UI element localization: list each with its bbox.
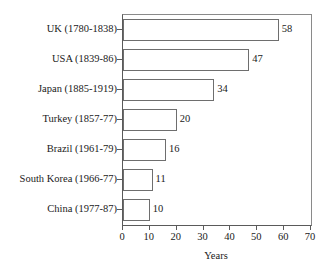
bar-value-label: 58 [282, 23, 293, 34]
x-axis-tick-label: 20 [170, 231, 181, 243]
y-axis-label: UK (1780-1838) [47, 23, 117, 35]
bar-value-label: 16 [169, 143, 180, 154]
y-axis-label: Japan (1885-1919) [38, 83, 117, 95]
bar [123, 79, 214, 101]
x-axis-tick [149, 225, 150, 230]
y-axis-label: China (1977-87) [47, 203, 117, 215]
x-axis-tick-label: 70 [305, 231, 316, 243]
x-axis-tick [310, 225, 311, 230]
bar-value-label: 34 [217, 83, 228, 94]
x-axis-tick [203, 225, 204, 230]
x-axis-tick-label: 0 [119, 231, 124, 243]
bar [123, 19, 279, 41]
y-axis-label: South Korea (1966-77) [20, 173, 117, 185]
y-axis-label: USA (1839-86) [52, 53, 117, 65]
x-axis-tick-label: 30 [197, 231, 208, 243]
x-axis-tick [229, 225, 230, 230]
x-axis-tick [122, 225, 123, 230]
y-axis-label: Brazil (1961-79) [47, 143, 117, 155]
bar-value-label: 47 [252, 53, 263, 64]
x-axis-title: Years [122, 250, 310, 262]
y-axis-label: Turkey (1857-77) [42, 113, 117, 125]
bar [123, 139, 166, 161]
x-axis-tick-label: 50 [251, 231, 262, 243]
bar [123, 109, 177, 131]
x-axis-tick [256, 225, 257, 230]
x-axis-tick-label: 60 [278, 231, 289, 243]
bar-value-label: 11 [156, 173, 166, 184]
x-axis-tick [283, 225, 284, 230]
plot-area [122, 14, 312, 226]
x-axis-tick [176, 225, 177, 230]
bar-chart: UK (1780-1838)USA (1839-86)Japan (1885-1… [0, 0, 332, 273]
bar [123, 49, 249, 71]
x-axis-tick-label: 40 [224, 231, 235, 243]
bar [123, 199, 150, 221]
bar [123, 169, 153, 191]
y-axis-labels: UK (1780-1838)USA (1839-86)Japan (1885-1… [0, 0, 117, 273]
bar-value-label: 10 [153, 203, 164, 214]
bar-value-label: 20 [180, 113, 191, 124]
x-axis-tick-label: 10 [144, 231, 155, 243]
